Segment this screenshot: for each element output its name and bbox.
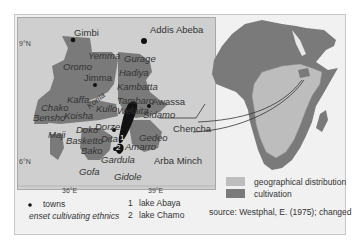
town-addis-abeba: Addis Abeba xyxy=(150,25,203,35)
ethnic-gurage: Gurage xyxy=(124,54,156,64)
ethnic-gardula: Gardula xyxy=(101,155,135,165)
ethnic-maji: Maji xyxy=(48,130,65,140)
lat-9-label: 9°N xyxy=(19,40,31,47)
ethnic-kambatta: Kambatta xyxy=(117,82,158,92)
ethnic-dorze: Dorze xyxy=(95,122,120,132)
ethnic-doko: Doko xyxy=(76,125,98,135)
legend-geo-distribution: geographical distribution xyxy=(254,178,346,187)
legend-cultivation: cultivation xyxy=(254,190,292,199)
ethnic-bako: Bako xyxy=(81,146,103,156)
ethnic-gofa: Gofa xyxy=(79,167,100,177)
ethnic-kullo: Kullo xyxy=(96,104,117,114)
ethnic-oromo: Oromo xyxy=(63,62,92,72)
ethnic-gidole: Gidole xyxy=(114,172,141,182)
lon-39-label: 39°E xyxy=(148,187,163,194)
source-note: source: Westphal, E. (1975); changed xyxy=(209,208,352,217)
lake-chamo-marker: 2 xyxy=(116,144,120,152)
ethnic-bensho: Bensho xyxy=(33,113,65,123)
ethnic-sidamo: Sidamo xyxy=(143,110,175,120)
legend-lake1-num: 1 xyxy=(128,199,133,208)
town-chencha: Chencha xyxy=(173,124,211,134)
legend-towns: towns xyxy=(43,200,65,209)
lon-36-label: 36°E xyxy=(62,187,77,194)
legend-lake1: lake Abaya xyxy=(139,199,181,208)
lat-6-label: 6°N xyxy=(19,158,31,165)
lake-abaya-marker: 1 xyxy=(120,134,124,142)
town-gimbi: Gimbi xyxy=(74,28,99,38)
africa-map xyxy=(212,20,338,170)
ethnic-yemma: Yemma xyxy=(88,51,120,61)
town-awassa: Awassa xyxy=(152,97,185,107)
ethnic-amarro: Amarro xyxy=(125,142,156,152)
legend-lake2: lake Chamo xyxy=(139,211,184,220)
legend-lake2-num: 2 xyxy=(128,211,133,220)
town-jimma: Jimma xyxy=(84,73,112,83)
legend-ethnics: enset cultivating ethnics xyxy=(29,212,119,221)
ethnic-koisha: Koisha xyxy=(64,111,93,121)
town-arba-minch: Arba Minch xyxy=(154,156,202,166)
ethnic-hadiya: Hadiya xyxy=(119,68,149,78)
